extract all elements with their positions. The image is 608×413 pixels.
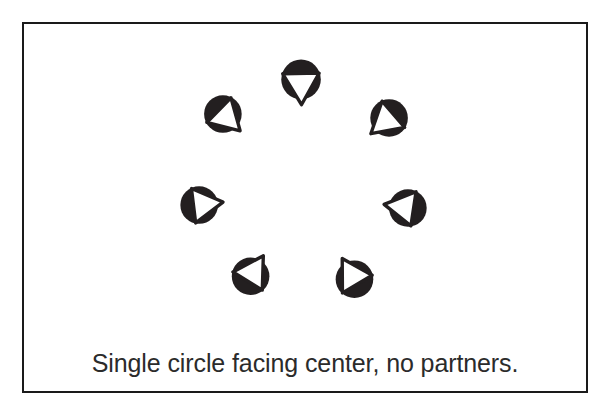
figure-frame-border: Single circle facing center, no partners…: [22, 22, 588, 393]
circle-facing-center-upper-right: [370, 99, 408, 137]
circle-facing-center-right: [384, 189, 427, 227]
figure-caption: Single circle facing center, no partners…: [24, 349, 586, 378]
circle-facing-center-upper-left: [204, 95, 242, 133]
circle-facing-center-left: [180, 186, 223, 224]
circle-facing-center-lower-right: [336, 259, 374, 299]
figure-root: Single circle facing center, no partners…: [0, 0, 608, 413]
ring-diagram: [24, 24, 586, 391]
circle-facing-center-lower-left: [232, 256, 270, 295]
circle-facing-center-top: [281, 60, 321, 105]
shapes-layer: [180, 60, 426, 298]
